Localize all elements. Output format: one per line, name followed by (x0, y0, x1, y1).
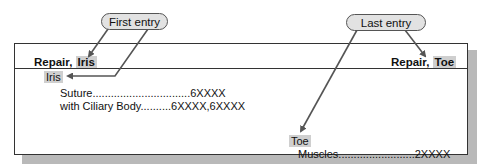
callout-first-entry: First entry (101, 13, 168, 30)
arrow-last-to-guide-icon (405, 30, 425, 56)
arrow-last-to-toe-icon (301, 30, 357, 131)
callout-last-entry: Last entry (346, 14, 426, 31)
arrow-first-to-guide-icon (89, 29, 108, 56)
arrow-first-to-iris-icon (68, 29, 148, 76)
